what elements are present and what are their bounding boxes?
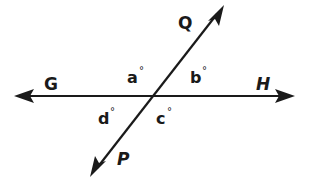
label-h: H [256, 74, 270, 94]
angle-c: c ° [156, 106, 172, 128]
angle-b: b ° [190, 65, 207, 87]
angle-b-degree: ° [202, 65, 207, 76]
angle-b-letter: b [190, 68, 201, 87]
angle-a-degree: ° [139, 65, 144, 76]
angle-a: a ° [127, 65, 144, 87]
angle-d-letter: d [98, 109, 109, 128]
label-q: Q [178, 13, 192, 33]
label-g: G [44, 74, 58, 94]
angle-a-letter: a [127, 68, 138, 87]
angle-d-degree: ° [110, 106, 115, 117]
angle-c-letter: c [156, 109, 165, 128]
angle-d: d ° [98, 106, 115, 128]
intersecting-lines-diagram: Q G H P a ° b ° d ° c ° [0, 0, 310, 182]
label-p: P [117, 149, 130, 169]
line-pq [90, 5, 224, 177]
angle-c-degree: ° [167, 106, 172, 117]
